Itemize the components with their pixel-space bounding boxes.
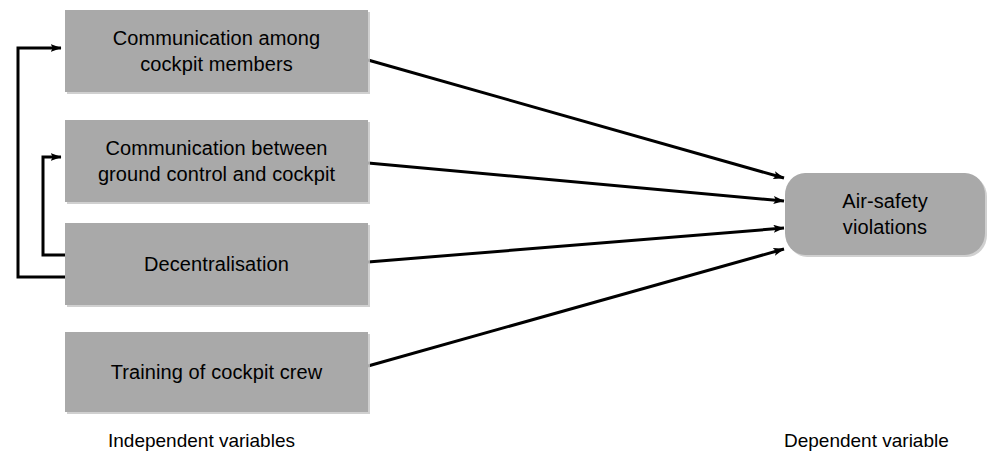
node-label: Air-safety violations bbox=[832, 188, 937, 241]
node-communication-ground-control-cockpit[interactable]: Communication between ground control and… bbox=[65, 120, 368, 202]
conceptual-model-diagram: Communication among cockpit members Comm… bbox=[0, 0, 999, 471]
node-label: Decentralisation bbox=[134, 251, 299, 277]
arrow-comm-ground-to-violations bbox=[368, 163, 784, 201]
arrow-training-to-violations bbox=[368, 249, 784, 366]
node-label: Training of cockpit crew bbox=[101, 359, 333, 385]
node-communication-among-cockpit-members[interactable]: Communication among cockpit members bbox=[65, 10, 368, 92]
node-air-safety-violations[interactable]: Air-safety violations bbox=[785, 173, 985, 255]
node-label: Communication among cockpit members bbox=[103, 25, 331, 78]
caption-dependent-variable: Dependent variable bbox=[784, 430, 949, 452]
node-decentralisation[interactable]: Decentralisation bbox=[65, 223, 368, 305]
arrow-comm-cockpit-to-violations bbox=[368, 60, 784, 178]
feedback-arrows bbox=[18, 48, 65, 277]
main-arrows bbox=[368, 60, 784, 366]
node-label: Communication between ground control and… bbox=[88, 135, 345, 188]
node-training-of-cockpit-crew[interactable]: Training of cockpit crew bbox=[65, 332, 368, 412]
arrow-decentralisation-to-violations bbox=[368, 228, 784, 262]
arrow-decentralisation-to-comm-ground bbox=[43, 157, 65, 255]
caption-independent-variables: Independent variables bbox=[108, 430, 295, 452]
